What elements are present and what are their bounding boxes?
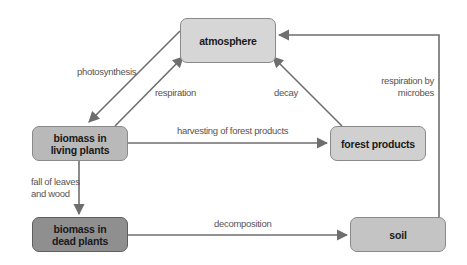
soil-label: soil: [389, 229, 406, 241]
forest-products-label: forest products: [341, 138, 415, 150]
soil-node: soil: [350, 217, 446, 252]
forest-products-node: forest products: [330, 126, 426, 161]
living-plants-label-line1: biomass in: [54, 132, 107, 144]
carbon-cycle-diagram: atmosphere biomass in living plants biom…: [0, 0, 467, 265]
respiration-by-microbes-label: respiration by microbes: [380, 75, 434, 99]
fall-of-leaves-line2: and wood: [31, 188, 80, 200]
dead-plants-label-line2: dead plants: [52, 235, 108, 247]
atmosphere-label: atmosphere: [199, 35, 257, 47]
respiration-by-microbes-line1: respiration by: [380, 75, 434, 87]
harvesting-label: harvesting of forest products: [177, 125, 288, 137]
decomposition-label: decomposition: [214, 218, 271, 230]
respiration-by-microbes-line2: microbes: [380, 87, 434, 99]
atmosphere-node: atmosphere: [180, 18, 276, 63]
decay-label: decay: [274, 87, 298, 99]
photosynthesis-label: photosynthesis: [77, 66, 136, 78]
dead-plants-label-line1: biomass in: [54, 223, 107, 235]
biomass-dead-plants-node: biomass in dead plants: [32, 217, 128, 252]
respiration-label: respiration: [155, 87, 196, 99]
living-plants-label-line2: living plants: [51, 144, 110, 156]
fall-of-leaves-line1: fall of leaves: [31, 176, 80, 188]
biomass-living-plants-node: biomass in living plants: [32, 126, 128, 161]
fall-of-leaves-label: fall of leaves and wood: [31, 176, 80, 200]
